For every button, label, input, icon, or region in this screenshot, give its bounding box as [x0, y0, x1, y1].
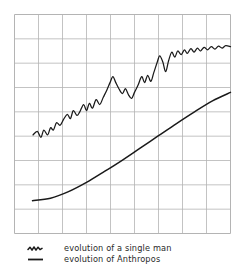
- wavy-line-symbol: [27, 243, 57, 254]
- legend-item-single-man: evolution of a single man: [27, 243, 237, 254]
- straight-line-symbol: [27, 254, 57, 265]
- chart-legend: evolution of a single man evolution of A…: [27, 243, 237, 265]
- legend-label-anthropos: evolution of Anthropos: [57, 254, 160, 265]
- chart-gridlines: [15, 15, 231, 234]
- legend-item-anthropos: evolution of Anthropos: [27, 254, 237, 265]
- chart-figure: evolution of a single man evolution of A…: [0, 0, 243, 268]
- legend-label-single-man: evolution of a single man: [57, 243, 172, 254]
- chart-plot-area: [0, 0, 243, 268]
